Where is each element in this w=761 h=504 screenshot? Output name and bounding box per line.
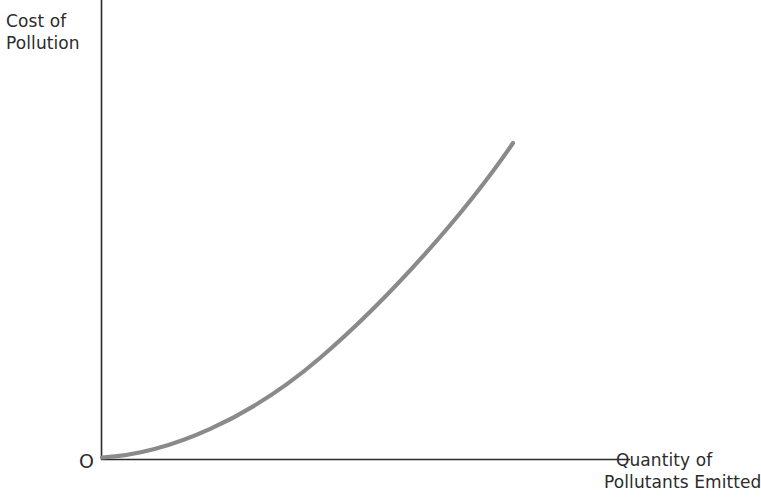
origin-label: O <box>79 449 94 473</box>
chart-plot-area <box>0 0 761 504</box>
cost-of-pollution-curve <box>102 143 513 458</box>
x-axis-label-line1: Quantity of <box>616 449 761 471</box>
x-axis-label-line2: Pollutants Emitted <box>604 471 761 493</box>
chart-canvas: Cost of Pollution Quantity of Pollutants… <box>0 0 761 504</box>
y-axis-label-line1: Cost of <box>6 10 80 32</box>
y-axis-label-line2: Pollution <box>6 32 80 54</box>
y-axis-label: Cost of Pollution <box>6 10 80 54</box>
x-axis-label: Quantity of Pollutants Emitted <box>616 449 761 493</box>
